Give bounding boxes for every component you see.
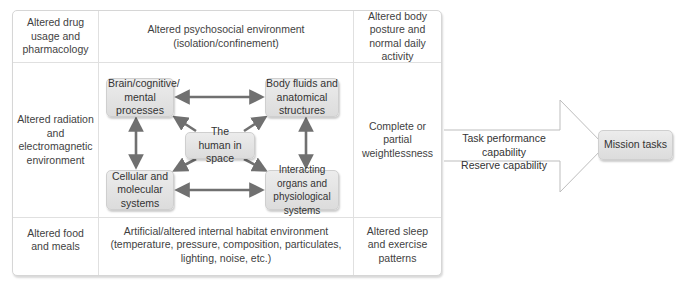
node-interacting-organs: Interacting organs and physiological sys…: [265, 170, 339, 210]
node-label: Mission tasks: [604, 138, 667, 152]
node-cellular-molecular: Cellular and molecular systems: [106, 170, 174, 210]
connection-arrows: [0, 0, 678, 285]
node-human-in-space: The human in space: [185, 132, 255, 159]
arrow-human-brain: [179, 120, 196, 131]
reserve-capability-label: Reserve capability: [444, 159, 564, 173]
arrow-human-interacting: [244, 159, 261, 168]
node-label: Interacting organs and physiological sys…: [266, 163, 338, 217]
node-brain-cognitive: Brain/cognitive/ mental processes: [106, 78, 174, 117]
node-mission-tasks: Mission tasks: [598, 130, 673, 160]
node-label: Cellular and molecular systems: [110, 170, 170, 211]
node-label: Brain/cognitive/ mental processes: [108, 77, 172, 118]
node-body-fluids: Body fluids and anatomical structures: [265, 78, 339, 117]
arrow-human-body: [244, 120, 261, 131]
capability-labels: Task performance capability Reserve capa…: [444, 132, 564, 173]
arrow-human-cellular: [179, 159, 196, 168]
node-label: The human in space: [195, 125, 245, 166]
node-label: Body fluids and anatomical structures: [266, 77, 338, 118]
task-performance-label: Task performance capability: [444, 132, 564, 159]
